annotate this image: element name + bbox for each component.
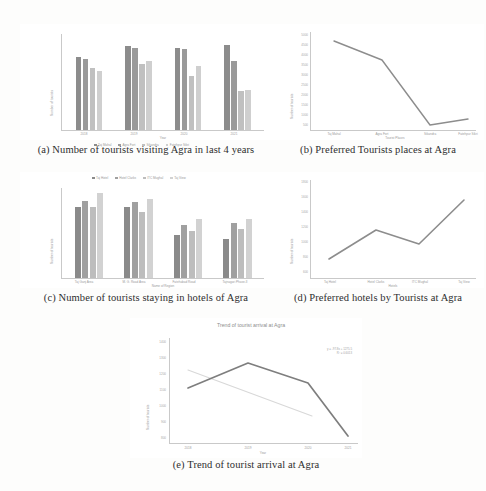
figure-a: Number of tourists — [20, 24, 272, 160]
bar — [90, 207, 96, 278]
bar — [189, 76, 195, 130]
legend-item: Taj View — [170, 176, 186, 180]
figure-c-group-tajnagari — [217, 188, 257, 278]
legend-label: Hotel Clarks — [119, 176, 136, 180]
bar — [147, 199, 153, 278]
legend-item: ITC Mughal — [143, 176, 163, 180]
figure-page: Number of tourists — [0, 0, 486, 491]
figure-e-trend-equation: y = -97.8x + 1275.5 R² = 0.6013 — [290, 348, 352, 356]
figure-b-plot: Number of tourists 5000 4500 4000 3500 3… — [272, 24, 484, 140]
figure-b: Number of tourists 5000 4500 4000 3500 3… — [272, 24, 484, 160]
bar — [238, 229, 244, 278]
figure-c-legend: Taj Hotel Hotel Clarks ITC Mughal Taj Vi… — [92, 176, 186, 180]
figure-e-xtick: 2018 — [174, 446, 202, 450]
bar — [97, 193, 103, 279]
figure-b-xtick: Fatehpur Sikri — [454, 132, 482, 136]
figure-c: Taj Hotel Hotel Clarks ITC Mughal Taj Vi… — [20, 172, 272, 308]
bar — [189, 231, 195, 278]
bar — [139, 64, 145, 130]
figure-c-xtick: Taj Ganj Area — [66, 280, 102, 284]
legend-item: Taj Hotel — [92, 176, 108, 180]
figure-e-line — [130, 318, 362, 458]
bar — [196, 66, 202, 130]
figure-a-caption: (a) Number of tourists visiting Agra in … — [20, 144, 272, 155]
figure-c-group-tajganj — [69, 188, 109, 278]
figure-a-x-axis-label: Year — [148, 136, 178, 140]
legend-swatch-icon — [143, 177, 146, 180]
figure-d-xtick: ITC Mughal — [406, 280, 434, 284]
bar — [231, 223, 237, 278]
figure-a-xtick-2021: 2021 — [219, 132, 249, 136]
trendline — [188, 370, 312, 416]
bar — [181, 225, 187, 278]
bar — [139, 212, 145, 278]
bar — [83, 59, 89, 130]
figure-a-y-axis — [61, 34, 62, 130]
bar — [97, 71, 103, 130]
figure-a-xtick-2019: 2019 — [119, 132, 149, 136]
figure-b-caption: (b) Preferred Tourists places at Agra — [272, 144, 484, 155]
figure-a-y-axis-label: Number of tourists — [50, 90, 54, 116]
legend-label: Taj Hotel — [96, 176, 108, 180]
bar — [76, 57, 82, 130]
bar — [82, 201, 88, 278]
figure-e-plot: Trend of tourist arrival at Agra Number … — [130, 318, 362, 458]
legend-item: Hotel Clarks — [115, 176, 136, 180]
bar — [246, 219, 252, 278]
figure-c-caption: (c) Number of tourists staying in hotels… — [20, 292, 272, 303]
figure-e-xtick: 2021 — [334, 446, 362, 450]
trend-r2-line: R² = 0.6013 — [290, 352, 352, 356]
bar — [132, 202, 138, 278]
figure-c-plot: Taj Hotel Hotel Clarks ITC Mughal Taj Vi… — [20, 172, 272, 288]
figure-d-x-axis-label: Hotels — [378, 284, 408, 288]
figure-a-plot: Number of tourists — [20, 24, 272, 140]
figure-a-bar-area — [64, 34, 262, 130]
bar — [196, 219, 202, 278]
figure-b-xtick: Taj Mahal — [320, 132, 348, 136]
bar — [182, 49, 188, 130]
legend-label: ITC Mughal — [147, 176, 163, 180]
figure-e-caption: (e) Trend of tourist arrival at Agra — [130, 459, 362, 470]
figure-e-x-axis-label: Year — [248, 451, 278, 455]
legend-swatch-icon — [115, 177, 118, 180]
figure-b-line — [272, 24, 484, 140]
figure-b-xtick: Sikandra — [416, 132, 444, 136]
bar — [90, 68, 96, 130]
figure-d-line — [272, 172, 484, 288]
figure-e-xtick: 2019 — [234, 446, 262, 450]
bar — [132, 48, 138, 130]
bar — [224, 45, 230, 130]
figure-d-plot: Number of tourists 1800 1600 1400 1200 1… — [272, 172, 484, 288]
figure-d-xtick: Taj View — [450, 280, 478, 284]
figure-a-group-2020 — [168, 34, 208, 130]
bar — [238, 91, 244, 130]
figure-c-group-fatehabad — [168, 188, 208, 278]
figure-a-group-2021 — [217, 34, 257, 130]
figure-a-group-2019 — [118, 34, 158, 130]
figure-d-caption: (d) Preferred hotels by Tourists at Agra — [272, 292, 484, 303]
figure-d-xtick: Taj Hotel — [316, 280, 344, 284]
bar — [124, 207, 130, 278]
figure-c-xtick: Tajnagari Phase-II — [216, 280, 254, 284]
figure-c-x-axis-label: Name of Region — [142, 284, 184, 288]
figure-c-y-axis — [61, 188, 62, 278]
figure-c-bar-area — [64, 188, 262, 278]
bar — [231, 61, 237, 130]
figure-a-x-axis — [61, 130, 264, 131]
legend-swatch-icon — [170, 177, 173, 180]
figure-c-y-axis-label: Number of tourists — [50, 239, 54, 264]
bar — [174, 235, 180, 278]
legend-label: Taj View — [174, 176, 185, 180]
figure-b-x-axis-label: Tourist Places — [378, 136, 412, 140]
bar — [146, 61, 152, 130]
bar — [223, 239, 229, 278]
legend-swatch-icon — [92, 177, 95, 180]
figure-c-group-mgroad — [118, 188, 158, 278]
bar — [75, 207, 81, 278]
figure-e-xtick: 2020 — [294, 446, 322, 450]
figure-a-xtick-2018: 2018 — [69, 132, 99, 136]
figure-e: Trend of tourist arrival at Agra Number … — [130, 318, 362, 478]
figure-d: Number of tourists 1800 1600 1400 1200 1… — [272, 172, 484, 308]
bar — [245, 90, 251, 130]
figure-a-group-2018 — [69, 34, 109, 130]
